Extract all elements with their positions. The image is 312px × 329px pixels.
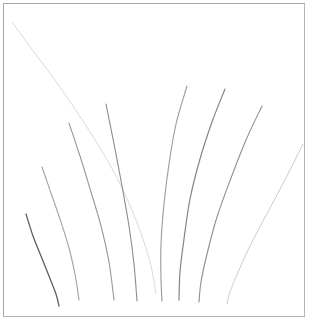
curve-3 [42, 167, 79, 300]
curve-2 [26, 214, 59, 306]
plot-panel-frame [3, 3, 305, 317]
curve-canvas [4, 4, 306, 318]
curve-group [12, 22, 303, 306]
curve-9 [227, 144, 303, 304]
curve-7 [179, 89, 225, 300]
figure-root [0, 0, 312, 329]
curve-6 [161, 86, 187, 301]
curve-8 [199, 106, 262, 302]
curve-1 [12, 22, 156, 294]
curve-4 [69, 123, 114, 300]
